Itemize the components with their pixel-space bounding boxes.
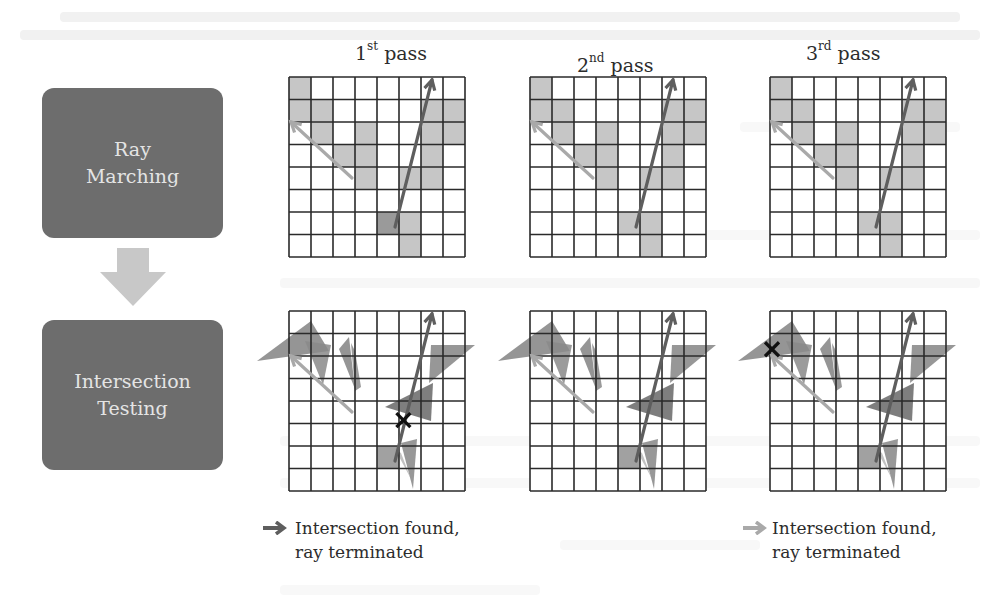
- ray-marching-grid-pass-2: [530, 77, 706, 257]
- pass-title-3: 3rd pass: [806, 42, 881, 64]
- ray-marching-grid-pass-3: [770, 77, 946, 257]
- ray-marching-box: Ray Marching: [42, 88, 223, 238]
- ray-marching-label-line2: Marching: [86, 163, 179, 190]
- intersection-grid-pass-3: [770, 311, 946, 491]
- pass-title-1: 1st pass: [355, 42, 427, 64]
- dark-ray-legend-arrow-icon: [262, 521, 288, 535]
- pass-title-2: 2nd pass: [577, 54, 654, 76]
- intersection-grid-pass-1: [289, 311, 465, 491]
- light-ray-legend-arrow-icon: [742, 521, 768, 535]
- intersection-testing-label-line2: Testing: [74, 395, 191, 422]
- dark-ray-legend-text: Intersection found, ray terminated: [295, 516, 460, 564]
- intersection-grid-pass-2: [530, 311, 706, 491]
- light-ray-legend-text: Intersection found, ray terminated: [772, 516, 937, 564]
- ray-marching-label-line1: Ray: [86, 136, 179, 163]
- intersection-testing-label-line1: Intersection: [74, 368, 191, 395]
- intersection-testing-box: Intersection Testing: [42, 320, 223, 470]
- ray-marching-grid-pass-1: [289, 77, 465, 257]
- flow-down-arrow-icon: [98, 248, 168, 308]
